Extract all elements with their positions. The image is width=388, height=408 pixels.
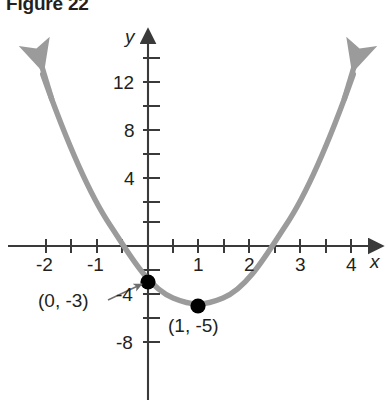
x-tick-label-4: 4 [346, 255, 357, 274]
axis-lines [8, 42, 370, 400]
y-tick-label-4: 4 [124, 169, 135, 188]
annotation-y-intercept: (0, -3) [38, 291, 89, 310]
y-tick-label-neg4: -4 [116, 285, 133, 304]
x-tick-label-2: 2 [244, 255, 255, 274]
y-tick-label-8: 8 [124, 121, 135, 140]
x-axis-label: x [370, 252, 380, 271]
x-tick-label-neg2: -2 [36, 255, 53, 274]
point-y-intercept [140, 274, 155, 289]
parabola-graph [0, 0, 388, 408]
point-vertex [190, 298, 205, 313]
y-tick-label-12: 12 [113, 73, 134, 92]
x-tick-label-1: 1 [193, 255, 204, 274]
y-tick-label-neg8: -8 [116, 333, 133, 352]
y-axis-ticks [143, 58, 160, 342]
y-axis-label: y [125, 27, 135, 46]
x-tick-label-3: 3 [295, 255, 306, 274]
annotation-vertex: (1, -5) [168, 316, 219, 335]
x-tick-label-neg1: -1 [87, 255, 104, 274]
